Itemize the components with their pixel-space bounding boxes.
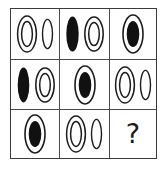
double-ring-ellipse-icon: [65, 114, 87, 154]
matrix-cell-row2-col1[interactable]: [11, 60, 60, 110]
matrix-cell-row2-col3[interactable]: [110, 60, 156, 110]
shape-group: [11, 110, 59, 158]
shape-group: [60, 60, 109, 109]
matrix-cell-row1-col2[interactable]: [60, 9, 110, 60]
matrix-grid: ?: [10, 8, 157, 159]
double-ring-ellipse-icon: [34, 66, 56, 104]
outline-with-filled-center-ellipse-icon: [121, 13, 145, 55]
shape-group: [110, 60, 156, 109]
double-ring-ellipse-icon: [83, 15, 105, 53]
matrix-cell-row3-col1[interactable]: [11, 110, 60, 158]
shape-group: [11, 60, 59, 109]
shape-group: [110, 9, 156, 59]
shape-group: [60, 110, 109, 158]
outline-with-filled-center-ellipse-icon: [73, 64, 97, 106]
shape-group: [60, 9, 109, 59]
matrix-cell-row2-col2[interactable]: [60, 60, 110, 110]
matrix-cell-row3-col3[interactable]: ?: [110, 110, 156, 158]
solid-filled-ellipse-icon: [64, 14, 81, 54]
shape-group: [11, 9, 59, 59]
matrix-cell-row3-col2[interactable]: [60, 110, 110, 158]
matrix-puzzle: ?: [0, 0, 165, 169]
thin-outline-ellipse-icon: [89, 117, 104, 151]
matrix-cell-row1-col3[interactable]: [110, 9, 156, 60]
double-ring-ellipse-icon: [114, 65, 136, 105]
solid-filled-ellipse-icon: [15, 65, 32, 105]
thin-outline-ellipse-icon: [138, 68, 153, 102]
matrix-cell-row1-col1[interactable]: [11, 9, 60, 60]
thin-outline-ellipse-icon: [40, 17, 55, 51]
double-ring-ellipse-icon: [16, 14, 38, 54]
missing-cell-question-mark: ?: [126, 120, 140, 149]
outline-with-filled-center-ellipse-icon: [23, 113, 47, 155]
